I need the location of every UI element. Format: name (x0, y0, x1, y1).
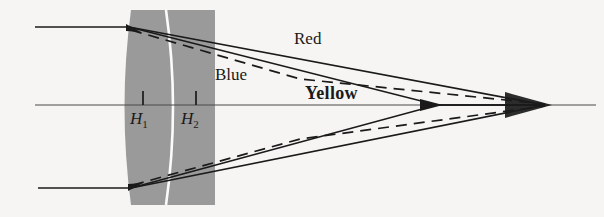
label-h2-letter: H (181, 109, 193, 128)
focus-yellow-marker (420, 99, 443, 111)
label-h1-subscript: 1 (142, 118, 148, 130)
label-h2-subscript: 2 (193, 118, 199, 130)
focus-common-marker (505, 92, 552, 118)
label-blue: Blue (215, 66, 247, 83)
chromatic-aberration-figure: Red Blue Yellow H1 H2 (0, 0, 604, 217)
label-yellow: Yellow (305, 84, 358, 102)
label-h2: H2 (181, 110, 199, 130)
label-red: Red (294, 30, 321, 47)
label-h1: H1 (130, 110, 148, 130)
label-h1-letter: H (130, 109, 142, 128)
